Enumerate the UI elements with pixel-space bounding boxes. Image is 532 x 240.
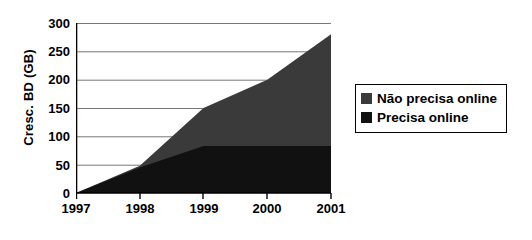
plot-area: [76, 23, 331, 193]
legend-item: Não precisa online: [361, 89, 497, 108]
x-tick-label: 2001: [301, 202, 361, 215]
legend-item-label: Precisa online: [377, 111, 469, 125]
x-tick-label: 1998: [110, 202, 170, 215]
legend-item: Precisa online: [361, 108, 497, 127]
chart-figure: Cresc. BD (GB) 300 250 200 150 100 50 0 …: [0, 0, 532, 240]
square-marker-icon: [361, 93, 372, 104]
area-chart-svg: [76, 23, 335, 200]
legend-item-label: Não precisa online: [377, 92, 497, 106]
x-tick-label: 1997: [46, 202, 106, 215]
chart-legend: Não precisa online Precisa online: [355, 84, 507, 133]
x-tick-label: 1999: [174, 202, 234, 215]
area-series-precisa-online: [76, 146, 331, 193]
x-tick-label: 2000: [237, 202, 297, 215]
x-tick-marks: [77, 193, 332, 199]
square-marker-icon: [361, 112, 372, 123]
